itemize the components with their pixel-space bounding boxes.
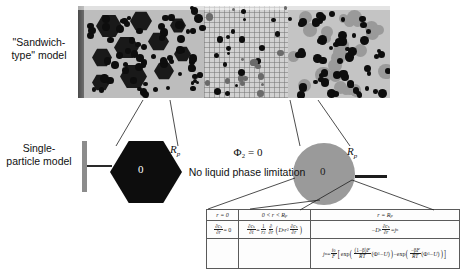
leader-table-surface-b (352, 180, 434, 210)
micrograph-particle (377, 49, 381, 53)
micrograph-particle (190, 28, 195, 33)
micrograph-particle (329, 11, 335, 17)
micrograph-particle (130, 77, 136, 83)
micrograph-particle (125, 48, 131, 54)
particle-lead-line-left (87, 165, 112, 167)
micrograph-particle (223, 62, 227, 66)
micrograph-particle (100, 74, 109, 83)
micrograph-particle (321, 69, 328, 76)
micrograph-particle (142, 91, 149, 98)
micrograph-particle (205, 80, 210, 85)
micrograph-particle (176, 46, 184, 54)
leader-table-center (208, 178, 295, 209)
micrograph-particle (373, 89, 378, 94)
micrograph-particle (189, 54, 198, 63)
table-empty-cell-a (207, 239, 239, 268)
equation-butler-volmer: jn= i0F [exp( (1−β)FRT (Φ1−U))−exp( −βFR… (311, 239, 459, 268)
micrograph-particle (378, 89, 387, 98)
micrograph-particle (104, 57, 112, 65)
micrograph-particle (337, 58, 343, 64)
micrograph-particle (206, 13, 213, 20)
table-header-r-surface: r = Rp (311, 210, 459, 221)
micrograph-particle (348, 81, 354, 87)
micrograph-particle (92, 87, 97, 92)
micrograph-particle (116, 25, 124, 33)
micrograph-particle (318, 77, 323, 82)
micrograph-particle (160, 57, 167, 64)
micrograph-particle (275, 31, 281, 37)
current-collector-edge (78, 6, 84, 98)
particle-lead-line-right (355, 175, 387, 178)
micrograph-particle (225, 78, 231, 84)
micrograph-particle (168, 14, 175, 21)
micrograph-particle (257, 90, 263, 96)
diagram-canvas: "Sandwich-type" model Single-particle mo… (0, 0, 464, 274)
boundary-condition-equation-table: r = 0 0 < r < Rp r = Rp ∂cs∂r= 0 ∂cs∂t= … (206, 209, 460, 269)
electrode-cross-section-micrograph (78, 6, 390, 98)
no-liquid-limitation-label: No liquid phase limitation (186, 166, 308, 179)
micrograph-particle (190, 86, 195, 91)
hex-radius-label: Rp (170, 143, 180, 158)
micrograph-particle (238, 69, 245, 76)
micrograph-particle (239, 36, 246, 43)
micrograph-particle (341, 17, 346, 22)
equation-surface-flux: −Ds ∂cs∂r = jn (311, 221, 459, 239)
micrograph-particle (231, 29, 236, 34)
micrograph-particle (141, 44, 147, 50)
table-header-r-interior: 0 < r < Rp (239, 210, 311, 221)
micrograph-particle (319, 57, 327, 65)
micrograph-particle (299, 93, 303, 97)
table-empty-cell-b (239, 239, 311, 268)
micrograph-particle (366, 29, 371, 34)
micrograph-particle (107, 37, 113, 43)
leader-circle-right (318, 100, 350, 146)
micrograph-particle (102, 23, 110, 31)
micrograph-particle (151, 54, 156, 59)
micrograph-particle (226, 46, 231, 51)
micrograph-particle (271, 18, 276, 23)
micrograph-particle (385, 68, 390, 74)
leader-hex-left (116, 100, 143, 146)
micrograph-particle (136, 28, 142, 34)
micrograph-particle (255, 64, 260, 69)
micrograph-particle (191, 81, 195, 85)
phi-condition-label: Φ₂ = 0 (196, 146, 300, 158)
micrograph-particle (159, 35, 164, 40)
micrograph-particle (194, 14, 203, 23)
leader-hex-right (170, 100, 178, 146)
micrograph-particle (143, 82, 147, 86)
micrograph-particle (241, 9, 246, 14)
table-header-r-zero: r = 0 (207, 210, 239, 221)
micrograph-particle (357, 92, 363, 98)
micrograph-particle (136, 54, 144, 62)
micrograph-particle (240, 81, 245, 86)
micrograph-particle (169, 59, 174, 64)
micrograph-particle (360, 22, 366, 28)
micrograph-particle (127, 16, 131, 20)
micrograph-particle (191, 7, 198, 14)
micrograph-particle (333, 91, 338, 96)
micrograph-particle (339, 70, 347, 78)
leader-circle-left (290, 100, 300, 146)
single-particle-model-label: Single-particle model (6, 142, 72, 169)
micrograph-particle (122, 67, 129, 74)
micrograph-particle (116, 52, 123, 59)
micrograph-particle (197, 72, 203, 78)
sandwich-model-label: "Sandwich-type" model (2, 36, 76, 63)
micrograph-particle (373, 25, 383, 35)
micrograph-particle (199, 25, 205, 31)
circle-radius-label: Rp (347, 145, 357, 160)
micrograph-particle (162, 15, 169, 22)
circle-origin-label: 0 (320, 165, 326, 177)
micrograph-particle (135, 42, 140, 47)
micrograph-particle (277, 50, 284, 57)
hex-origin-label: 0 (138, 163, 144, 175)
micrograph-particle (258, 73, 264, 79)
micrograph-particle (129, 37, 135, 43)
equation-center-symmetry: ∂cs∂r= 0 (207, 221, 239, 239)
micrograph-particle (360, 36, 369, 45)
micrograph-particle (177, 35, 185, 43)
equation-diffusion: ∂cs∂t= 1r2 ∂∂r (Dsr2 ∂cs∂r) (239, 221, 311, 239)
micrograph-particle (232, 8, 235, 11)
micrograph-particle (186, 29, 190, 33)
